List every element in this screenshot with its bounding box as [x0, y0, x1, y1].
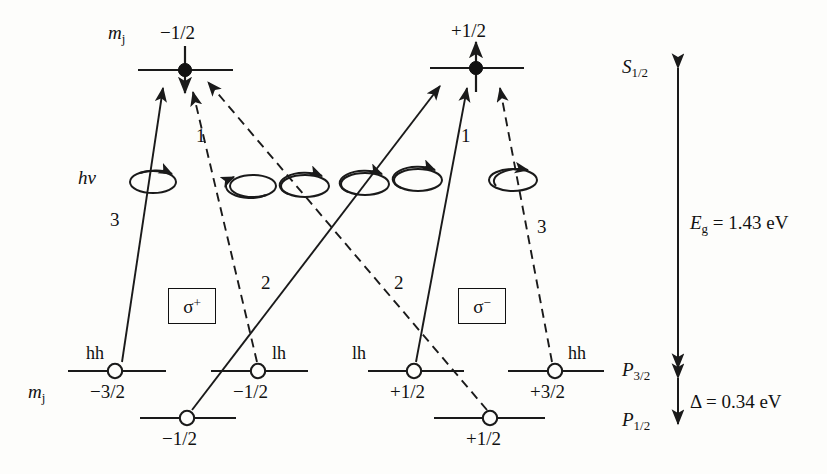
hole-marker-hh-p32 [548, 364, 562, 378]
sigma-minus-symbol: σ− [473, 295, 491, 318]
transition-label-sigma-plus-2: 2 [261, 273, 271, 292]
polarization-spiral-sp3 [130, 170, 176, 193]
spin-orbit-split-value: = 0.34 eV [706, 391, 782, 412]
mj-value-hh-p32: +3/2 [530, 382, 565, 401]
figure-canvas: mj −1/2 +1/2 hν 3 1 2 3 1 2 σ+ σ− mj hh … [0, 0, 827, 474]
spin-orbit-split-annotation: Δ = 0.34 eV [690, 392, 782, 411]
mj-value-hh-m32: −3/2 [90, 382, 125, 401]
hole-marker-lh-p12 [407, 364, 421, 378]
band-gap-value: = 1.43 eV [713, 212, 789, 233]
mj-value-so-m12: −1/2 [162, 429, 197, 448]
transition-label-sigma-plus-1: 1 [196, 126, 206, 145]
shell-label-p32: P3/2 [622, 360, 650, 383]
transition-sigma-plus-3 [122, 88, 163, 362]
mj-value-so-p12: +1/2 [466, 429, 501, 448]
mj-label-bottom: mj [28, 382, 45, 405]
cb-right-mj-value: +1/2 [451, 21, 486, 40]
cb-left-mj-value: −1/2 [160, 23, 195, 42]
band-label-lh-p12: lh [352, 344, 366, 362]
band-label-hh-p32: hh [568, 344, 586, 362]
hole-marker-so-p12 [483, 411, 497, 425]
mj-value-lh-p12: +1/2 [390, 382, 425, 401]
mj-value-lh-m12: −1/2 [233, 382, 268, 401]
polarization-spiral-sp1 [226, 175, 276, 198]
sigma-plus-symbol: σ+ [183, 295, 201, 318]
hole-marker-lh-m12 [251, 364, 265, 378]
band-gap-annotation: Eg = 1.43 eV [690, 213, 788, 236]
shell-label-p12: P1/2 [622, 410, 650, 433]
hole-marker-so-m12 [180, 411, 194, 425]
transition-sigma-plus-2 [208, 82, 487, 410]
sigma-plus-box: σ+ [168, 288, 216, 324]
polarization-spiral-sp2 [280, 173, 329, 197]
hole-marker-hh-m32 [108, 364, 122, 378]
transition-label-sigma-minus-3: 3 [537, 217, 547, 236]
polarization-spiral-sm3 [489, 169, 537, 191]
electron-marker-left [178, 63, 191, 76]
transition-label-sigma-plus-3: 3 [110, 210, 120, 229]
sigma-minus-box: σ− [458, 288, 506, 324]
transition-label-sigma-minus-1: 1 [461, 126, 471, 145]
band-label-hh-m32: hh [86, 344, 104, 362]
transition-sigma-minus-2 [192, 86, 440, 410]
band-label-lh-m12: lh [272, 344, 286, 362]
electron-marker-right [469, 61, 482, 74]
polarization-spiral-sm1 [393, 167, 442, 191]
photon-energy-label: hν [78, 168, 96, 187]
shell-label-s12: S1/2 [622, 57, 648, 80]
polarization-spiral-sm2 [340, 171, 389, 195]
mj-label-top: mj [108, 23, 125, 46]
transition-label-sigma-minus-2: 2 [394, 273, 404, 292]
